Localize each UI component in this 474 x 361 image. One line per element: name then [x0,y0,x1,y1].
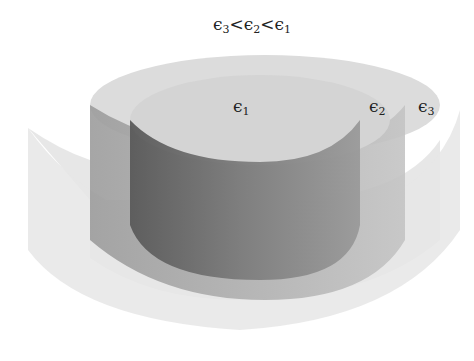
less-than: < [260,14,274,34]
label-eps2: ϵ2 [369,96,386,118]
eps-symbol: ϵ [244,14,254,34]
eps-symbol: ϵ [369,96,379,116]
label-eps1: ϵ1 [233,96,250,118]
label-eps3: ϵ3 [418,96,435,118]
eps-symbol: ϵ [275,14,285,34]
nested-cylinders-diagram [0,0,474,361]
eps-symbol: ϵ [213,14,223,34]
subscript: 3 [223,23,230,36]
subscript: 2 [379,105,386,118]
eps-symbol: ϵ [233,96,243,116]
subscript: 1 [243,105,250,118]
subscript: 3 [428,105,435,118]
eps-symbol: ϵ [418,96,428,116]
permittivity-ordering-title: ϵ3<ϵ2<ϵ1 [213,14,291,36]
less-than: < [230,14,244,34]
subscript: 1 [284,23,291,36]
